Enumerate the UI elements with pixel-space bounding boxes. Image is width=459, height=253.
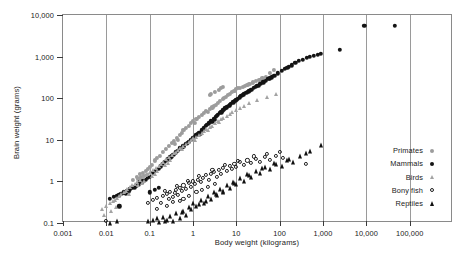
- data-point-mammals: [170, 154, 174, 158]
- data-point-mammals: [251, 86, 255, 90]
- data-point-birds: [265, 95, 269, 99]
- data-point-birds: [176, 148, 180, 152]
- data-point-primates: [216, 101, 220, 105]
- gridline-x-10: [236, 15, 237, 221]
- data-point-birds: [125, 187, 129, 191]
- legend-item-mammals[interactable]: Mammals: [390, 158, 441, 169]
- data-point-birds: [172, 151, 176, 155]
- data-point-primates: [138, 172, 142, 176]
- data-point-mammals: [127, 189, 131, 193]
- data-point-birds: [247, 101, 251, 105]
- x-tick-mark: [236, 221, 237, 226]
- data-point-mammals: [204, 123, 208, 127]
- data-point-mammals: [158, 164, 162, 168]
- data-point-bony-fish: [151, 198, 155, 202]
- data-point-primates: [247, 82, 251, 86]
- x-tick-label-10,000: 10,000: [355, 229, 378, 238]
- data-point-primates: [194, 117, 198, 121]
- legend-item-primates[interactable]: Primates: [390, 145, 441, 156]
- data-point-reptiles: [285, 158, 289, 163]
- data-point-bony-fish: [173, 191, 177, 195]
- data-point-birds: [206, 128, 210, 132]
- data-point-bony-fish: [263, 155, 267, 159]
- data-point-reptiles: [304, 151, 308, 156]
- data-point-bony-fish: [159, 201, 163, 205]
- data-point-reptiles: [115, 219, 119, 224]
- data-point-reptiles: [298, 154, 302, 159]
- data-point-primates: [230, 90, 234, 94]
- data-point-mammals: [268, 76, 272, 80]
- x-tick-mark: [280, 221, 281, 226]
- data-point-reptiles: [194, 203, 198, 208]
- data-point-primates: [264, 75, 268, 79]
- data-point-mammals: [227, 103, 231, 107]
- x-tick-label-0.001: 0.001: [54, 229, 73, 238]
- data-point-bony-fish: [171, 195, 175, 199]
- data-point-bony-fish: [176, 193, 180, 197]
- data-point-primates: [175, 136, 179, 140]
- data-point-mammals: [209, 119, 213, 123]
- x-tick-label-0.01: 0.01: [99, 229, 114, 238]
- marker-glyph: [430, 175, 434, 179]
- data-point-mammals: [293, 61, 297, 65]
- data-point-mammals: [184, 142, 188, 146]
- gridline-x-100: [280, 15, 281, 221]
- data-point-primates: [184, 126, 188, 130]
- data-point-primates: [178, 133, 182, 137]
- data-point-birds: [130, 183, 134, 187]
- data-point-primates: [155, 156, 159, 160]
- y-tick-label-1: 1: [50, 177, 54, 186]
- data-point-reptiles: [238, 176, 242, 181]
- data-point-birds: [135, 180, 139, 184]
- data-point-reptiles: [268, 166, 272, 171]
- data-point-mammals: [238, 95, 242, 99]
- y-axis-title: Brain weight (grams): [12, 63, 21, 183]
- data-point-reptiles: [274, 162, 278, 167]
- data-point-mammals: [239, 93, 243, 97]
- data-point-primates: [164, 147, 168, 151]
- data-point-mammals: [187, 139, 191, 143]
- data-point-mammals: [218, 111, 222, 115]
- gridline-x-1: [193, 15, 194, 221]
- data-point-primates: [173, 142, 177, 146]
- x-tick-mark: [63, 221, 64, 226]
- data-point-mammals: [176, 148, 180, 152]
- data-point-mammals: [143, 177, 147, 181]
- legend-item-bony-fish[interactable]: Bony fish: [390, 185, 441, 196]
- data-point-mammals: [205, 123, 209, 127]
- data-point-reptiles: [108, 221, 112, 226]
- data-point-mammals: [242, 92, 246, 96]
- data-point-birds: [122, 190, 126, 194]
- data-point-birds: [230, 110, 234, 114]
- data-point-birds: [115, 196, 119, 200]
- x-tick-label-10: 10: [232, 229, 240, 238]
- data-point-mammals: [231, 100, 235, 104]
- data-point-reptiles: [212, 190, 216, 195]
- data-point-reptiles: [157, 220, 161, 225]
- x-tick-mark: [193, 221, 194, 226]
- data-point-mammals: [128, 187, 132, 191]
- legend-item-reptiles[interactable]: Reptiles: [390, 198, 441, 209]
- data-point-primates: [131, 178, 135, 182]
- data-point-mammals: [198, 131, 202, 135]
- data-point-primates: [139, 175, 143, 179]
- data-point-reptiles: [291, 159, 295, 164]
- data-point-reptiles: [260, 166, 264, 171]
- data-point-reptiles: [180, 210, 184, 215]
- data-point-mammals: [219, 110, 223, 114]
- data-point-birds: [109, 209, 113, 213]
- data-point-bony-fish: [254, 157, 258, 161]
- data-point-primates: [213, 90, 217, 94]
- data-point-bony-fish: [221, 166, 225, 170]
- legend-item-birds[interactable]: Birds: [390, 172, 441, 183]
- data-point-mammals: [213, 118, 217, 122]
- data-point-bony-fish: [273, 153, 277, 157]
- y-tick-label-10,000: 10,000: [31, 11, 54, 20]
- data-point-bony-fish: [197, 174, 201, 178]
- data-point-birds: [133, 182, 137, 186]
- brain-body-weight-scatter-figure: 0.11101001,00010,000 0.0010.010.11101001…: [0, 0, 459, 253]
- data-point-mammals: [160, 162, 164, 166]
- marker-glyph: [430, 188, 434, 192]
- data-point-mammals: [165, 157, 169, 161]
- data-point-mammals: [285, 66, 289, 70]
